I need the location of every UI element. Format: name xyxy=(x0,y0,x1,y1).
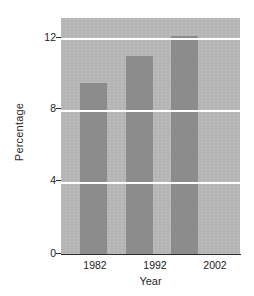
gridline-8 xyxy=(61,110,240,112)
gridline-4 xyxy=(61,182,240,184)
bar-1992 xyxy=(126,56,153,254)
x-axis-title: Year xyxy=(61,275,240,287)
bar-chart: Percentage 12 8 4 0 1982 1992 2002 Year xyxy=(0,0,254,296)
y-tick-label-4: 4 xyxy=(34,175,56,185)
y-tick-label-0: 0 xyxy=(34,248,56,258)
x-tick-label-1982: 1982 xyxy=(72,259,118,271)
x-tick-label-1992: 1992 xyxy=(132,259,178,271)
x-tick-label-2002: 2002 xyxy=(192,259,238,271)
bar-2002 xyxy=(171,36,198,254)
x-axis-line xyxy=(61,254,241,255)
bar-1982 xyxy=(80,83,107,254)
y-tick-label-8: 8 xyxy=(34,103,56,113)
y-axis-title: Percentage xyxy=(13,87,25,177)
y-tick-label-12: 12 xyxy=(34,32,56,42)
y-axis-ticks: 12 8 4 0 xyxy=(30,0,56,296)
gridline-12 xyxy=(61,38,240,40)
plot-area xyxy=(61,18,240,254)
